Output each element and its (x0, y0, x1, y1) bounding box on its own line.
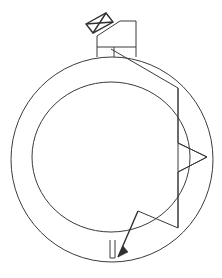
canvas-background (0, 0, 222, 278)
technical-diagram (0, 0, 222, 278)
diagram-canvas (0, 0, 222, 278)
